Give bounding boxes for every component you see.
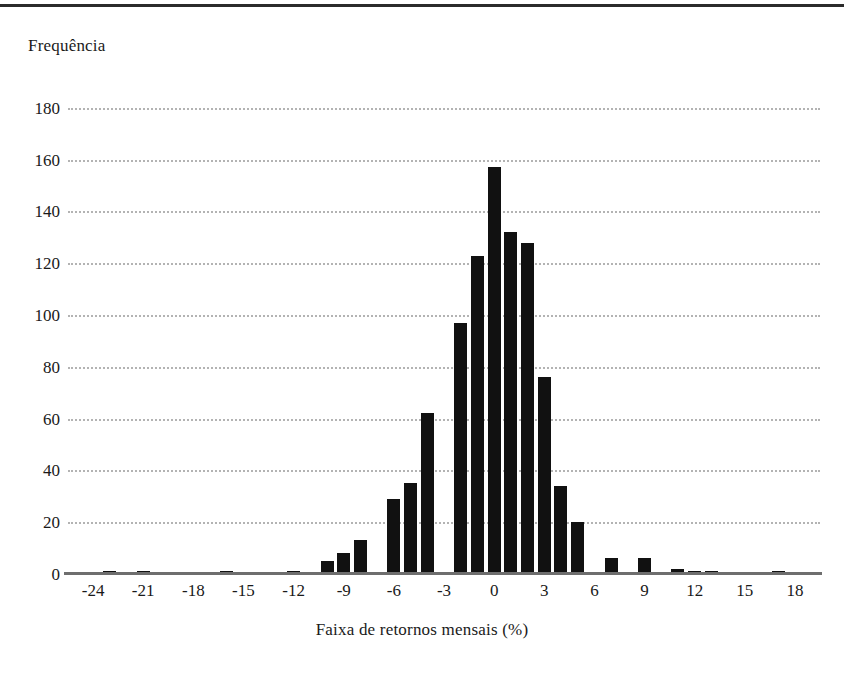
bar bbox=[521, 243, 534, 574]
x-tick-label: 18 bbox=[786, 582, 803, 599]
bar bbox=[337, 553, 350, 574]
histogram-figure: Frequência 020406080100120140160180 -24-… bbox=[0, 0, 844, 673]
x-tick-label: -15 bbox=[232, 582, 255, 599]
y-tick-label: 180 bbox=[16, 99, 60, 116]
y-tick-label: 140 bbox=[16, 203, 60, 220]
y-axis-title: Frequência bbox=[28, 36, 106, 56]
y-tick-label: 160 bbox=[16, 151, 60, 168]
y-tick-label: 120 bbox=[16, 255, 60, 272]
bar bbox=[454, 323, 467, 574]
bar bbox=[387, 499, 400, 574]
x-tick-label: 3 bbox=[540, 582, 549, 599]
bar bbox=[538, 377, 551, 574]
x-axis-line bbox=[64, 572, 822, 575]
bar-series bbox=[68, 82, 820, 574]
x-tick-label: 9 bbox=[640, 582, 649, 599]
x-tick-label: -24 bbox=[82, 582, 105, 599]
top-rule-divider bbox=[0, 4, 844, 7]
x-tick-label: 6 bbox=[590, 582, 599, 599]
x-axis-tick-labels: -24-21-18-15-12-9-6-30369121518 bbox=[68, 582, 820, 608]
y-tick-label: 60 bbox=[16, 410, 60, 427]
y-tick-label: 40 bbox=[16, 462, 60, 479]
x-tick-label: 12 bbox=[686, 582, 703, 599]
x-tick-label: -6 bbox=[387, 582, 401, 599]
y-tick-label: 100 bbox=[16, 307, 60, 324]
y-axis-tick-labels: 020406080100120140160180 bbox=[10, 82, 60, 574]
bar bbox=[421, 413, 434, 574]
x-tick-label: 15 bbox=[736, 582, 753, 599]
bar bbox=[504, 232, 517, 574]
x-tick-label: -12 bbox=[282, 582, 305, 599]
x-tick-label: -21 bbox=[132, 582, 155, 599]
y-tick-label: 0 bbox=[16, 566, 60, 583]
bar bbox=[571, 522, 584, 574]
x-tick-label: -18 bbox=[182, 582, 205, 599]
y-tick-label: 20 bbox=[16, 514, 60, 531]
x-tick-label: -3 bbox=[437, 582, 451, 599]
bar bbox=[404, 483, 417, 574]
x-tick-label: 0 bbox=[490, 582, 499, 599]
x-axis-title: Faixa de retornos mensais (%) bbox=[0, 620, 844, 640]
bar bbox=[488, 167, 501, 574]
y-tick-label: 80 bbox=[16, 358, 60, 375]
bar bbox=[554, 486, 567, 574]
bar bbox=[354, 540, 367, 574]
bar bbox=[471, 256, 484, 575]
x-tick-label: -9 bbox=[337, 582, 351, 599]
